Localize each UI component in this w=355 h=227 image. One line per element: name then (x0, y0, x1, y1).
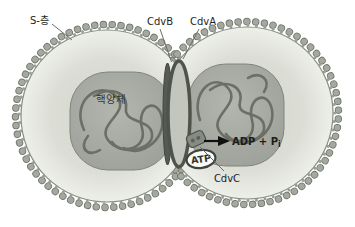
diagram-canvas: ADP + Pi ATP S-층 CdvB CdvA CdvC 핵양체 (0, 0, 355, 227)
s-layer-label: S-층 (30, 15, 49, 26)
cdvc-label: CdvC (214, 173, 240, 184)
cdvb-label: CdvB (147, 16, 173, 27)
left-nucleoid (70, 72, 172, 170)
cdva-label: CdvA (190, 16, 216, 27)
cell-division-diagram: ADP + Pi ATP S-층 CdvB CdvA CdvC 핵양체 (0, 0, 355, 227)
left-nucleoid-body (70, 72, 172, 170)
cdva-ring (168, 61, 190, 167)
nucleoid-label: 핵양체 (96, 93, 126, 105)
